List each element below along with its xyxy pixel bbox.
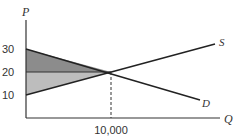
p-axis-label: P [21,5,30,19]
supply-label: S [219,36,225,48]
demand-label: D [201,97,210,109]
supply-demand-chart: P Q S D 30 20 10 10,000 [0,0,239,139]
q-axis-label: Q [224,112,233,126]
y-tick-20: 20 [2,66,14,78]
y-tick-10: 10 [2,89,14,101]
y-tick-30: 30 [2,43,14,55]
x-tick-10000: 10,000 [94,124,128,136]
